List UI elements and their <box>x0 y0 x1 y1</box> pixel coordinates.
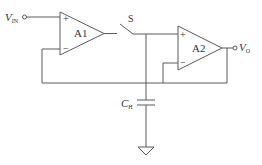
a1-minus-sign: − <box>63 43 69 54</box>
ground-icon <box>138 147 154 155</box>
circuit-diagram: VIN + − A1 S + − A2 VO CH <box>0 0 262 165</box>
a2-feedback-wire <box>163 63 178 83</box>
input-label: VIN <box>5 11 19 24</box>
output-terminal <box>233 46 237 50</box>
a2-label: A2 <box>192 42 205 54</box>
hold-capacitor <box>137 100 155 105</box>
opamp-a2: + − A2 <box>178 26 222 70</box>
opamp-a1: + − A1 <box>60 12 104 55</box>
switch-s <box>120 24 133 34</box>
a1-label: A1 <box>74 27 87 39</box>
output-label: VO <box>239 41 251 54</box>
switch-label: S <box>128 13 134 24</box>
a2-plus-sign: + <box>180 29 186 40</box>
input-terminal <box>23 15 27 19</box>
a1-plus-sign: + <box>63 13 69 24</box>
a2-minus-sign: − <box>180 57 186 68</box>
capacitor-label: CH <box>121 97 133 110</box>
